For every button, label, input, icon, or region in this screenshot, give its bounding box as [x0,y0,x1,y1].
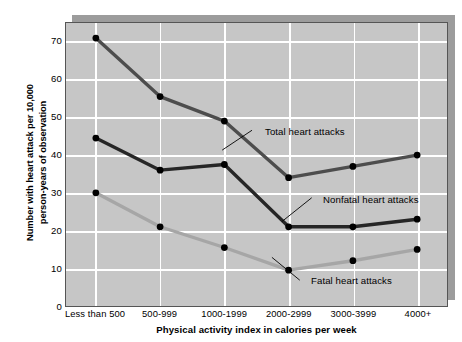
plot-area: Total heart attacksNonfatal heart attack… [65,22,448,307]
x-tick-label: 1000-1999 [201,308,247,319]
y-tick-label: 40 [32,150,62,160]
data-point-marker [221,244,228,251]
y-tick-label: 0 [32,302,62,312]
x-tick-label: 2000-2999 [266,308,312,319]
data-point-marker [92,135,99,142]
series-annotation-label: Nonfatal heart attacks [323,194,419,205]
x-axis-ticks: Less than 500500-9991000-19992000-299930… [65,308,448,324]
data-point-marker [285,174,292,181]
y-tick-label: 20 [32,226,62,236]
data-point-marker [221,161,228,168]
y-tick-label: 10 [32,264,62,274]
series-annotation-label: Total heart attacks [265,126,345,137]
y-axis-ticks: 010203040506070 [26,0,62,342]
data-point-marker [92,35,99,42]
data-point-marker [414,216,421,223]
x-tick-label: 500-999 [142,308,177,319]
data-point-marker [221,118,228,125]
series-annotation-label: Fatal heart attacks [311,275,392,286]
data-point-marker [285,223,292,230]
x-axis-title: Physical activity index in calories per … [65,324,448,335]
data-point-marker [157,167,164,174]
x-tick-label: 3000-3999 [331,308,377,319]
y-tick-label: 30 [32,188,62,198]
data-point-marker [414,246,421,253]
y-tick-label: 60 [32,74,62,84]
data-point-marker [157,93,164,100]
series-line [96,38,417,178]
data-point-marker [350,223,357,230]
data-point-marker [92,189,99,196]
series-lines [66,23,447,306]
y-tick-label: 50 [32,112,62,122]
data-point-marker [157,223,164,230]
x-tick-label: 4000+ [405,308,432,319]
chart-figure: Number with heart attack per 10,000 pers… [0,0,462,342]
data-point-marker [350,163,357,170]
data-point-marker [350,257,357,264]
annotation-leader-line [282,198,312,222]
x-tick-label: Less than 500 [65,308,125,319]
y-tick-label: 70 [32,36,62,46]
data-point-marker [414,152,421,159]
